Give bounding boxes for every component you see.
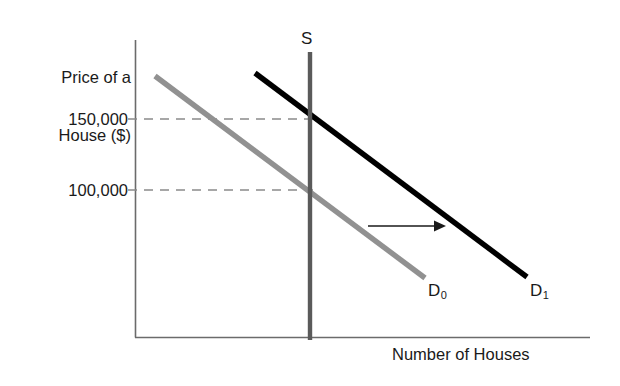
demand-curve-new-label-text: D: [530, 281, 542, 300]
demand-curve-new: [255, 73, 527, 277]
demand-curve-initial-label-text: D: [428, 281, 440, 300]
y-axis-title-line-1: Price of a: [0, 68, 131, 87]
demand-curve-initial-label: D0: [428, 281, 446, 301]
supply-demand-figure: Price of a House ($) 150,000 100,000 Num…: [0, 0, 620, 386]
demand-curve-initial: [155, 76, 425, 278]
y-tick-label-100000: 100,000: [0, 181, 128, 200]
rightward-shift-arrow: [368, 221, 446, 232]
demand-curve-new-label: D1: [530, 281, 548, 301]
supply-curve-label: S: [301, 29, 312, 49]
demand-curve-new-label-subscript: 1: [543, 289, 549, 301]
y-tick-label-150000: 150,000: [0, 110, 128, 129]
demand-curve-initial-label-subscript: 0: [441, 289, 447, 301]
x-axis-title: Number of Houses: [392, 345, 530, 364]
y-axis-title: Price of a House ($): [0, 29, 131, 185]
